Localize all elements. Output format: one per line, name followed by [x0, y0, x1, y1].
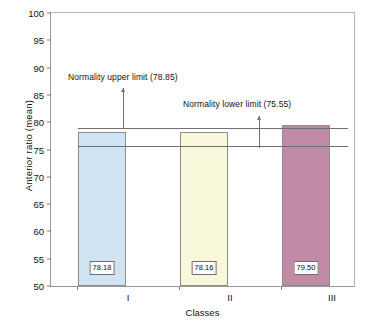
bar-value-label: 78.16 [192, 261, 217, 275]
y-tick-95: 95 [33, 35, 51, 46]
x-tick-mark-1 [77, 286, 78, 290]
bar-value-label: 78.18 [90, 261, 115, 275]
x-tick-mark-3 [281, 286, 282, 290]
x-tick-label-II: II [227, 292, 232, 303]
y-tick-label: 75 [33, 144, 47, 155]
bar-value-label: 79.50 [294, 261, 319, 275]
tick-mark-icon [47, 40, 51, 41]
lower-limit-arrow [259, 116, 260, 148]
y-tick-85: 85 [33, 89, 51, 100]
tick-mark-icon [47, 176, 51, 177]
x-tick-label-I: I [127, 292, 130, 303]
y-tick-80: 80 [33, 117, 51, 128]
y-tick-label: 100 [28, 8, 47, 19]
y-tick-label: 50 [33, 281, 47, 292]
tick-mark-icon [47, 258, 51, 259]
y-tick-75: 75 [33, 144, 51, 155]
y-tick-90: 90 [33, 62, 51, 73]
tick-mark-icon [47, 67, 51, 68]
upper-limit-arrow [123, 88, 124, 129]
y-tick-100: 100 [28, 8, 51, 19]
y-tick-70: 70 [33, 171, 51, 182]
bar-class-II[interactable]: 78.16 [180, 132, 228, 286]
y-tick-65: 65 [33, 199, 51, 210]
tick-mark-icon [47, 231, 51, 232]
reference-line-upper-limit [78, 128, 348, 129]
tick-mark-icon [47, 286, 51, 287]
bar-chart: Anterior ratio (mean) 100 95 90 85 80 75 [0, 0, 368, 327]
reference-line-lower-limit [78, 146, 348, 147]
x-tick-mark-2 [179, 286, 180, 290]
tick-mark-icon [47, 122, 51, 123]
y-tick-60: 60 [33, 226, 51, 237]
y-tick-label: 70 [33, 171, 47, 182]
y-tick-label: 85 [33, 89, 47, 100]
y-tick-label: 90 [33, 62, 47, 73]
x-tick-label-III: III [328, 292, 336, 303]
y-tick-label: 80 [33, 117, 47, 128]
lower-limit-annotation: Normality lower limit (75.55) [183, 99, 291, 109]
y-tick-label: 55 [33, 253, 47, 264]
x-axis-title: Classes [50, 307, 355, 318]
y-tick-label: 60 [33, 226, 47, 237]
tick-mark-icon [47, 149, 51, 150]
tick-mark-icon [47, 94, 51, 95]
tick-mark-icon [47, 13, 51, 14]
y-tick-55: 55 [33, 253, 51, 264]
tick-mark-icon [47, 204, 51, 205]
upper-limit-annotation: Normality upper limit (78.85) [68, 72, 178, 82]
plot-area: 100 95 90 85 80 75 70 65 [50, 12, 355, 287]
bar-class-I[interactable]: 78.18 [78, 132, 126, 286]
y-tick-50: 50 [33, 281, 51, 292]
y-tick-label: 65 [33, 199, 47, 210]
y-tick-label: 95 [33, 35, 47, 46]
bar-class-III[interactable]: 79.50 [282, 125, 330, 286]
y-axis-title: Anterior ratio (mean) [23, 46, 34, 246]
